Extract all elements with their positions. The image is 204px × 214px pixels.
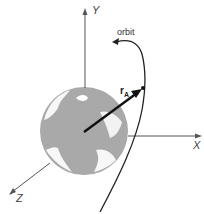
orbit-label: orbit xyxy=(117,27,135,37)
vector-label-subscript: A xyxy=(124,91,129,98)
satellite-point xyxy=(141,86,145,90)
y-axis-arrow-icon xyxy=(83,8,88,15)
orbit-direction-arrow-icon xyxy=(112,38,119,45)
z-axis-label: Z xyxy=(16,192,23,204)
x-axis-arrow-icon xyxy=(195,134,202,139)
y-axis-label: Y xyxy=(92,4,99,16)
z-axis xyxy=(12,163,50,192)
x-axis-label: X xyxy=(193,139,200,151)
vector-label: rA xyxy=(120,85,129,98)
z-axis-arrow-icon xyxy=(9,188,16,195)
orbit-diagram xyxy=(0,0,204,214)
